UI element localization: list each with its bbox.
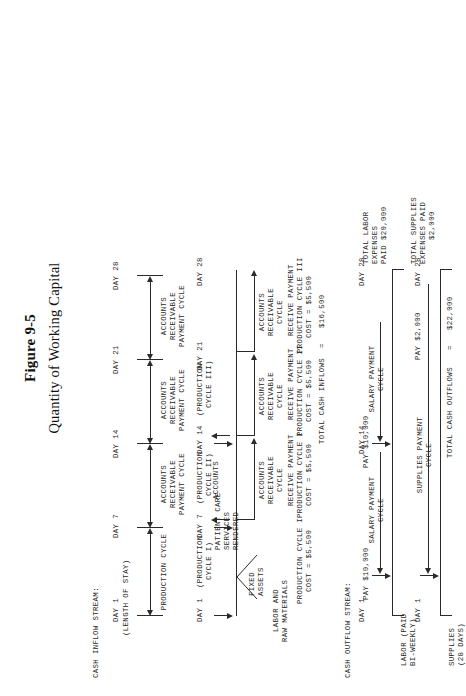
- ar-cycle1-riser: [236, 519, 254, 520]
- ar-cycle2-caption-line1: ACCOUNTS: [258, 356, 267, 436]
- input-fixed-assets-line1: FIXED: [248, 572, 257, 596]
- ar-cycle1-line: [254, 442, 255, 520]
- timeline-a-span4-caption-line2: RECEIVABLE: [169, 276, 178, 356]
- labor-cycle2-label-line2: CYCLE: [377, 320, 386, 438]
- timeline-b-return2-arrowhead: [211, 433, 217, 439]
- input-labor-materials-line1: LABOR AND: [272, 589, 281, 632]
- labor-pay1-arrowhead: [385, 573, 391, 579]
- timeline-b-input1-arrowhead: [227, 613, 233, 619]
- supplies-row-label-line1: SUPPLIES: [448, 628, 457, 666]
- receive-payment-2-line3: COST = $5,500: [305, 360, 314, 422]
- timeline-a-span3-caption-line1: ACCOUNTS: [160, 360, 169, 440]
- labor-baseline: [392, 270, 393, 616]
- total-labor-line3: PAID $20,000: [380, 207, 389, 264]
- timeline-a-span1-caption: PRODUCTION CYCLE: [160, 528, 169, 616]
- total-cash-inflows-value: $16,500: [318, 295, 327, 329]
- ar-cycle3-arrowhead: [251, 270, 257, 276]
- input-fixed-assets-line2: ASSETS: [257, 567, 266, 596]
- figure-title: Quantity of Working Capital: [46, 0, 63, 696]
- receive-payment-2-line2: PRODUCTION CYCLE II: [296, 345, 305, 436]
- ar-cycle3-caption-line2: RECEIVABLE: [267, 272, 276, 352]
- ar-cycle2-riser: [236, 435, 254, 436]
- production-cost-note-line2: COST = $5,500: [305, 530, 314, 592]
- input-labor-materials-line2: RAW MATERIALS: [281, 580, 290, 642]
- receive-payment-3-line3: COST = $5,500: [305, 276, 314, 338]
- supplies-day-start-label: DAY 1: [414, 598, 423, 622]
- timeline-a-day1-label: DAY 1: [112, 598, 121, 622]
- labor-pay2-arrowhead: [385, 441, 391, 447]
- timeline-a-span3-arrow-right: [147, 360, 153, 366]
- timeline-b-day1-sub2: CYCLE I): [205, 542, 214, 580]
- timeline-a-day28-label: DAY 28: [112, 261, 121, 290]
- supplies-cycle-label-line1: SUPPLIES PAYMENT: [416, 340, 425, 570]
- cash-outflow-stream-heading: CASH OUTFLOW STREAM:: [344, 582, 353, 678]
- cash-inflow-stream-heading: CASH INFLOW STREAM:: [92, 587, 101, 678]
- timeline-a-day21-label: DAY 21: [112, 345, 121, 374]
- total-cash-inflows-label: TOTAL CASH INFLOWS: [318, 358, 327, 444]
- timeline-b-day28-label: DAY 28: [196, 257, 205, 286]
- labor-cycle1-label-line1: SALARY PAYMENT: [368, 450, 377, 570]
- receive-payment-2-line1: RECEIVE PAYMENT: [287, 348, 296, 420]
- timeline-a-span4-caption-line1: ACCOUNTS: [160, 276, 169, 356]
- patient-care-line2: SERVICES: [223, 512, 232, 550]
- timeline-b-return2-stem: [216, 435, 230, 436]
- total-labor-line2: EXPENSES: [371, 226, 380, 264]
- receive-payment-3-line2: PRODUCTION CYCLE III: [296, 257, 305, 353]
- ar-cycle3-line: [254, 274, 255, 352]
- timeline-a-span3-caption-line3: PAYMENT CYCLE: [178, 360, 187, 440]
- supplies-cycle-label-line2: CYCLE: [425, 340, 434, 570]
- receive-payment-1-line1: RECEIVE PAYMENT: [287, 434, 296, 506]
- ar-cycle1-arrowhead: [251, 438, 257, 444]
- timeline-b-input3-arrowhead: [227, 441, 233, 447]
- supplies-pay-amount: PAY $2,000: [414, 312, 423, 360]
- ar-cycle1-caption-line2: RECEIVABLE: [267, 440, 276, 520]
- timeline-a-span3-arrow-left: [147, 438, 153, 444]
- patient-care-line3: RENDERED: [232, 512, 241, 550]
- total-cash-inflows-equals: =: [318, 343, 327, 348]
- production-cost-note-line1: PRODUCTION CYCLE I: [296, 518, 305, 604]
- timeline-b-day7-label: DAY 7: [196, 514, 205, 538]
- supplies-baseline: [440, 270, 441, 616]
- timeline-a-span2-line: [150, 448, 151, 524]
- timeline-a-span2-caption-line1: ACCOUNTS: [160, 444, 169, 524]
- ar-cycle2-caption-line2: RECEIVABLE: [267, 356, 276, 436]
- timeline-b-day14-sub1: (PRODUCTION: [196, 363, 205, 416]
- labor-day-start-label: DAY 1: [358, 598, 367, 622]
- timeline-b-day1-label: DAY 1: [196, 598, 205, 622]
- timeline-a-span2-caption-line3: PAYMENT CYCLE: [178, 444, 187, 524]
- timeline-a-span2-arrow-right: [147, 444, 153, 450]
- timeline-b-day7-sub1: (PRODUCTION: [196, 451, 205, 504]
- timeline-a-span4-arrow-right: [147, 276, 153, 282]
- timeline-b-day1-sub1: (PRODUCTION: [196, 535, 205, 588]
- ar-cycle2-line: [254, 358, 255, 436]
- ar-cycle2-arrowhead: [251, 354, 257, 360]
- receive-payment-1-line2: PRODUCTION CYCLE I: [296, 432, 305, 518]
- timeline-a-day14-label: DAY 14: [112, 429, 121, 458]
- labor-row-label-line1: LABOR (PAID: [400, 613, 409, 666]
- timeline-a-span3-line: [150, 364, 151, 440]
- labor-pay1-stem: [372, 575, 386, 576]
- ar-cycle1-label-line1: ACCOUNTS: [212, 440, 221, 520]
- ar-cycle3-caption-line3: CYCLE: [276, 272, 285, 352]
- timeline-a-span2-arrow-left: [147, 522, 153, 528]
- labor-pay2-stem: [372, 443, 386, 444]
- timeline-a-span1-arrow-right: [147, 528, 153, 534]
- total-cash-outflows-value: $22,000: [446, 297, 455, 331]
- timeline-a-day7-label: DAY 7: [112, 514, 121, 538]
- timeline-a-span3-caption-line2: RECEIVABLE: [169, 360, 178, 440]
- timeline-a-span2-caption-line2: RECEIVABLE: [169, 444, 178, 524]
- ar-cycle1-caption-line3: CYCLE: [276, 440, 285, 520]
- receive-payment-1-line3: COST = $5,500: [305, 444, 314, 506]
- supplies-baseline-right-cap: [440, 269, 452, 270]
- labor-cycle1-label-line2: CYCLE: [377, 450, 386, 570]
- receive-payment-3-line1: RECEIVE PAYMENT: [287, 264, 296, 336]
- supplies-baseline-left-cap: [440, 615, 452, 616]
- timeline-b-input1-stem: [214, 615, 228, 616]
- labor-baseline-right-cap: [392, 269, 404, 270]
- timeline-b-day14-sub2: CYCLE III): [205, 360, 214, 408]
- timeline-b-day14-label: DAY 14: [196, 425, 205, 454]
- supplies-pay-arrowhead: [433, 573, 439, 579]
- total-supplies-line3: $2,000: [428, 211, 437, 240]
- ar-cycle1-caption-line1: ACCOUNTS: [258, 440, 267, 520]
